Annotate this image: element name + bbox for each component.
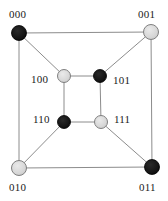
node-label-101: 101 bbox=[113, 75, 130, 86]
edges-layer bbox=[19, 32, 152, 168]
hypercube-figure: 000001010011100101110111 bbox=[0, 0, 168, 201]
graph-edge-000-001 bbox=[19, 32, 151, 33]
node-label-010: 010 bbox=[9, 182, 26, 193]
node-label-011: 011 bbox=[139, 182, 156, 193]
graph-edge-011-111 bbox=[101, 122, 152, 167]
graph-node-000[interactable] bbox=[12, 26, 27, 41]
node-label-110: 110 bbox=[33, 114, 50, 125]
node-label-111: 111 bbox=[114, 114, 130, 125]
graph-edge-000-100 bbox=[19, 33, 64, 76]
graph-node-010[interactable] bbox=[12, 161, 27, 176]
graph-edge-011-010 bbox=[19, 167, 152, 168]
graph-node-001[interactable] bbox=[144, 25, 159, 40]
node-label-001: 001 bbox=[138, 9, 155, 20]
graph-node-100[interactable] bbox=[58, 70, 71, 83]
graph-edge-010-110 bbox=[19, 122, 64, 168]
graph-edge-001-011 bbox=[151, 32, 152, 167]
graph-node-110[interactable] bbox=[58, 116, 71, 129]
graph-canvas bbox=[0, 0, 168, 201]
node-label-100: 100 bbox=[31, 74, 48, 85]
graph-node-111[interactable] bbox=[95, 116, 108, 129]
graph-node-101[interactable] bbox=[94, 70, 107, 83]
graph-edge-001-101 bbox=[100, 32, 151, 76]
graph-node-011[interactable] bbox=[145, 160, 160, 175]
node-label-000: 000 bbox=[9, 9, 26, 20]
